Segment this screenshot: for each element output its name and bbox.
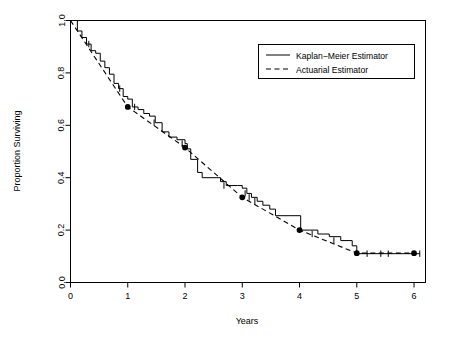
x-tick-label: 5 — [354, 291, 359, 301]
actuarial-point — [297, 227, 303, 233]
chart-canvas: 0.00.20.40.60.81.0 0123456 Years Proport… — [0, 0, 449, 347]
actuarial-point — [239, 194, 245, 200]
legend-label-kaplan-meier: Kaplan−Meier Estimator — [296, 51, 388, 61]
legend-label-actuarial: Actuarial Estimator — [296, 65, 368, 75]
survival-chart-figure: 0.00.20.40.60.81.0 0123456 Years Proport… — [0, 0, 449, 347]
x-tick-label: 2 — [183, 291, 188, 301]
y-axis-ticks: 0.00.20.40.60.81.0 — [57, 14, 71, 289]
x-tick-label: 3 — [240, 291, 245, 301]
x-axis-ticks: 0123456 — [68, 283, 417, 301]
y-tick-label: 0.6 — [57, 119, 67, 132]
x-tick-label: 6 — [412, 291, 417, 301]
actuarial-point — [182, 145, 188, 151]
chart-legend: Kaplan−Meier Estimator Actuarial Estimat… — [259, 45, 415, 79]
x-tick-label: 4 — [297, 291, 302, 301]
y-tick-label: 0.0 — [57, 276, 67, 289]
x-tick-label: 1 — [125, 291, 130, 301]
actuarial-data-points — [125, 104, 417, 256]
y-tick-label: 1.0 — [57, 14, 67, 27]
y-tick-label: 0.8 — [57, 67, 67, 80]
y-tick-label: 0.4 — [57, 171, 67, 184]
actuarial-point — [411, 250, 417, 256]
y-tick-label: 0.2 — [57, 224, 67, 237]
actuarial-point — [125, 104, 131, 110]
actuarial-point — [354, 250, 360, 256]
x-tick-label: 0 — [68, 291, 73, 301]
y-axis-title: Proportion Surviving — [12, 110, 22, 191]
x-axis-title: Years — [236, 316, 259, 326]
